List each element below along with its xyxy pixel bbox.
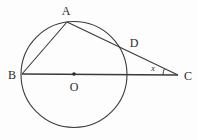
segment-ac <box>67 22 178 75</box>
segment-bc <box>22 74 178 75</box>
angle-arc-icon <box>163 69 164 75</box>
geometry-figure: A B C D O x <box>0 0 197 140</box>
angle-label-x: x <box>151 65 155 73</box>
center-point-dot <box>72 72 76 76</box>
geometry-canvas <box>0 0 197 140</box>
segment-ba <box>22 22 67 74</box>
